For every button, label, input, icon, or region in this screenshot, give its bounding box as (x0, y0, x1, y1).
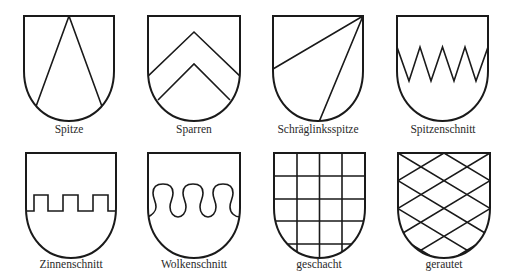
shield-sparren-icon (148, 16, 240, 126)
shield-label: geschacht (256, 258, 382, 270)
shield-spitzenschnitt-icon (397, 16, 488, 126)
shield-label: Schräglinksspitze (255, 123, 381, 135)
shield-label: Sparren (131, 123, 257, 135)
shield-label: Wolkenschnitt (131, 258, 257, 270)
shield-label: gerautet (381, 258, 507, 270)
shield-gerautet-icon (398, 153, 490, 263)
shield-label: Spitze (6, 123, 132, 135)
shield-zinnenschnitt-icon (26, 153, 116, 263)
shield-label: Zinnenschnitt (8, 258, 134, 270)
shield-label: Spitzenschnitt (380, 123, 506, 135)
shield-schraeglinksspitze-icon (273, 16, 363, 126)
shield-wolkenschnitt-icon (148, 153, 240, 263)
shield-spitze-icon (24, 16, 114, 126)
shield-geschacht-icon (274, 153, 365, 263)
